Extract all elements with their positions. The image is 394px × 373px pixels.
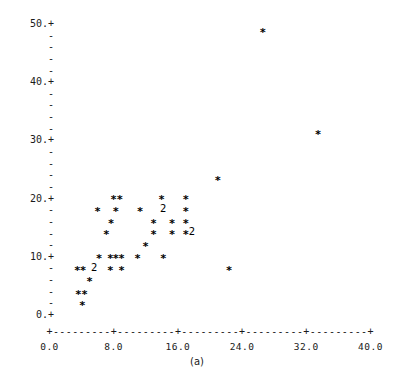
y-axis-minor-tick: - (10, 42, 54, 52)
y-axis-minor-tick: - (10, 229, 54, 239)
x-axis-minor-dash: - (130, 327, 136, 337)
data-point-marker: * (182, 194, 189, 205)
x-axis-minor-dash: - (98, 327, 104, 337)
x-axis-minor-dash: - (316, 327, 322, 337)
data-point-marker: * (108, 218, 115, 229)
x-axis-minor-dash: - (188, 327, 194, 337)
data-point-marker: * (182, 218, 189, 229)
x-axis-minor-dash: - (168, 327, 174, 337)
x-axis-minor-dash: - (66, 327, 72, 337)
x-axis-minor-dash: - (329, 327, 335, 337)
x-axis-minor-dash: - (323, 327, 329, 337)
y-axis-minor-tick: - (10, 112, 54, 122)
data-point-marker: * (215, 175, 222, 186)
x-axis-tick-label: 16.0 (155, 342, 201, 352)
y-axis-tick-20: 20.+ (10, 194, 54, 204)
x-axis-minor-dash: - (85, 327, 91, 337)
data-point-marker: * (134, 253, 141, 264)
y-axis-minor-tick: - (10, 240, 54, 250)
data-point-marker: * (226, 265, 233, 276)
x-axis-minor-dash: - (156, 327, 162, 337)
data-point-marker: * (118, 265, 125, 276)
x-axis-minor-dash: - (252, 327, 258, 337)
x-axis-minor-dash: - (220, 327, 226, 337)
data-point-marker: * (79, 300, 86, 311)
y-axis-minor-tick: - (10, 263, 54, 273)
y-axis-minor-tick: - (10, 100, 54, 110)
x-axis-minor-dash: - (201, 327, 207, 337)
data-point-marker: * (96, 253, 103, 264)
y-axis-minor-tick: - (10, 275, 54, 285)
x-axis-minor-dash: - (310, 327, 316, 337)
data-point-marker: * (315, 129, 322, 140)
data-point-marker: * (103, 229, 110, 240)
data-point-marker: * (118, 253, 125, 264)
y-axis-tick-30: 30.+ (10, 135, 54, 145)
y-axis-tick-0: 0.+ (10, 310, 54, 320)
y-axis-minor-tick: - (10, 182, 54, 192)
x-axis-minor-dash: - (265, 327, 271, 337)
data-point-marker: * (117, 194, 124, 205)
x-axis-minor-dash: - (117, 327, 123, 337)
x-axis-minor-dash: - (136, 327, 142, 337)
x-axis-minor-dash: - (335, 327, 341, 337)
x-axis-major-tick: + (368, 327, 374, 337)
x-axis-minor-dash: - (278, 327, 284, 337)
x-axis-minor-dash: - (91, 327, 97, 337)
y-axis-minor-tick: - (10, 54, 54, 64)
x-axis-minor-dash: - (355, 327, 361, 337)
data-point-count: 2 (189, 227, 195, 237)
x-axis-minor-dash: - (290, 327, 296, 337)
x-axis-minor-dash: - (361, 327, 367, 337)
data-point-marker: * (81, 289, 88, 300)
y-axis-minor-tick: - (10, 159, 54, 169)
data-point-marker: * (169, 218, 176, 229)
y-axis-tick-50: 50.+ (10, 19, 54, 29)
data-point-marker: * (158, 194, 165, 205)
y-axis-minor-tick: - (10, 89, 54, 99)
y-axis-minor-tick: - (10, 124, 54, 134)
x-axis-minor-dash: - (246, 327, 252, 337)
x-axis-minor-dash: - (258, 327, 264, 337)
data-point-marker: * (94, 206, 101, 217)
data-point-marker: * (182, 206, 189, 217)
x-axis-major-tick: + (111, 327, 117, 337)
x-axis-minor-dash: - (271, 327, 277, 337)
x-axis-minor-dash: - (72, 327, 78, 337)
y-axis-minor-tick: - (10, 31, 54, 41)
data-point-marker: * (150, 229, 157, 240)
data-point-marker: * (259, 27, 266, 38)
x-axis-minor-dash: - (162, 327, 168, 337)
data-point-marker: * (107, 265, 114, 276)
x-axis-minor-dash: - (124, 327, 130, 337)
x-axis-minor-dash: - (104, 327, 110, 337)
data-point-marker: * (142, 241, 149, 252)
x-axis-tick-label: 32.0 (283, 342, 329, 352)
y-axis-minor-tick: - (10, 217, 54, 227)
y-axis-tick-40: 40.+ (10, 77, 54, 87)
x-axis-minor-dash: - (226, 327, 232, 337)
x-axis-minor-dash: - (181, 327, 187, 337)
y-axis-minor-tick: - (10, 298, 54, 308)
figure-caption: (a) (0, 357, 394, 367)
x-axis-tick-label: 24.0 (219, 342, 265, 352)
x-axis-minor-dash: - (284, 327, 290, 337)
x-axis-minor-dash: - (213, 327, 219, 337)
x-axis-minor-dash: - (149, 327, 155, 337)
character-scatter-plot: 50.+----40.+----30.+----20.+----10.+----… (0, 0, 394, 373)
x-axis-major-tick: + (47, 327, 53, 337)
x-axis-minor-dash: - (297, 327, 303, 337)
x-axis-minor-dash: - (207, 327, 213, 337)
data-point-marker: * (169, 229, 176, 240)
y-axis-minor-tick: - (10, 170, 54, 180)
y-axis-minor-tick: - (10, 147, 54, 157)
x-axis-minor-dash: - (79, 327, 85, 337)
y-axis-minor-tick: - (10, 287, 54, 297)
x-axis-tick-label: 40.0 (348, 342, 394, 352)
x-axis-major-tick: + (303, 327, 309, 337)
x-axis-major-tick: + (239, 327, 245, 337)
data-point-marker: * (150, 218, 157, 229)
x-axis-minor-dash: - (233, 327, 239, 337)
x-axis-minor-dash: - (53, 327, 59, 337)
y-axis-tick-10: 10.+ (10, 252, 54, 262)
